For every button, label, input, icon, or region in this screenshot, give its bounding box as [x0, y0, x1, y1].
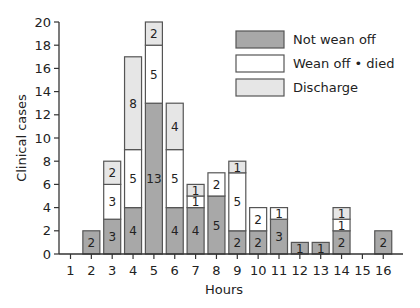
- y-tick-label: 6: [43, 177, 51, 192]
- y-tick-label: 4: [43, 200, 51, 215]
- bar-value-label: 1: [338, 207, 346, 221]
- y-axis-title: Clinical cases: [14, 94, 29, 182]
- y-tick-label: 16: [34, 61, 51, 76]
- bar-value-label: 5: [213, 219, 221, 233]
- bar-value-label: 3: [108, 230, 116, 244]
- bar-value-label: 1: [275, 207, 283, 221]
- y-tick-label: 20: [34, 15, 51, 30]
- bar-value-label: 5: [233, 195, 241, 209]
- bar-value-label: 2: [213, 178, 221, 192]
- y-tick-label: 14: [34, 84, 51, 99]
- bar-value-label: 1: [233, 161, 241, 175]
- x-tick-label: 3: [108, 263, 116, 278]
- bar-value-label: 3: [275, 230, 283, 244]
- bar-value-label: 5: [129, 172, 137, 186]
- y-tick-label: 12: [34, 107, 51, 122]
- legend: Not wean offWean off • diedDischarge: [236, 31, 394, 96]
- bar-value-label: 2: [379, 236, 387, 250]
- y-tick-label: 8: [43, 154, 51, 169]
- bar-value-label: 2: [233, 236, 241, 250]
- bar-value-label: 2: [88, 236, 96, 250]
- y-tick-label: 18: [34, 38, 51, 53]
- legend-label: Discharge: [293, 80, 358, 95]
- x-tick-label: 6: [171, 263, 179, 278]
- bar-value-label: 1: [192, 184, 200, 198]
- x-tick-label: 5: [150, 263, 158, 278]
- x-tick-label: 7: [191, 263, 199, 278]
- legend-label: Not wean off: [293, 32, 377, 47]
- bar-value-label: 2: [150, 27, 158, 41]
- x-tick-label: 9: [233, 263, 241, 278]
- x-tick-label: 13: [312, 263, 329, 278]
- bar-value-label: 4: [171, 224, 179, 238]
- bar-value-label: 4: [171, 120, 179, 134]
- bar-value-label: 4: [192, 224, 200, 238]
- bar-value-label: 2: [338, 236, 346, 250]
- x-tick-label: 10: [250, 263, 267, 278]
- legend-swatch: [236, 55, 284, 72]
- legend-label: Wean off • died: [293, 56, 394, 71]
- x-tick-label: 11: [271, 263, 288, 278]
- bar-value-label: 13: [146, 172, 161, 186]
- bar-value-label: 4: [129, 224, 137, 238]
- bar-value-label: 5: [171, 172, 179, 186]
- bar-value-label: 2: [254, 236, 262, 250]
- legend-swatch: [236, 31, 284, 48]
- y-tick-label: 0: [43, 247, 51, 262]
- y-tick-label: 10: [34, 131, 51, 146]
- x-tick-label: 2: [87, 263, 95, 278]
- x-tick-label: 8: [212, 263, 220, 278]
- legend-swatch: [236, 79, 284, 96]
- x-tick-label: 1: [66, 263, 74, 278]
- x-tick-label: 16: [375, 263, 392, 278]
- bar-value-label: 3: [108, 195, 116, 209]
- x-tick-label: 15: [354, 263, 371, 278]
- bar-value-label: 5: [150, 68, 158, 82]
- x-tick-label: 14: [333, 263, 350, 278]
- x-tick-label: 4: [129, 263, 137, 278]
- bar-value-label: 8: [129, 97, 137, 111]
- bar-value-label: 2: [108, 166, 116, 180]
- y-tick-label: 2: [43, 223, 51, 238]
- x-tick-label: 12: [292, 263, 309, 278]
- x-axis-title: Hours: [205, 282, 243, 297]
- stacked-bar-chart: 23324581352454411522512231112112 0246810…: [0, 0, 420, 308]
- bar-value-label: 2: [254, 213, 262, 227]
